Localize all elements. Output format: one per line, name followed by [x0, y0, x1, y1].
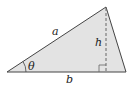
label-side-a: a [52, 25, 59, 38]
triangle [7, 7, 126, 72]
triangle-diagram: a h θ b [0, 0, 140, 88]
label-height: h [95, 36, 102, 49]
label-angle-theta: θ [28, 60, 35, 73]
label-side-b: b [66, 73, 73, 86]
